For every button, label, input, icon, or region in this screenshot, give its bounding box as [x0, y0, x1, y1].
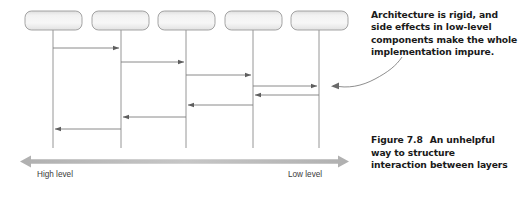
caption-text-line-3: interaction between layers [371, 159, 523, 172]
caption-text-line-2: way to structure [371, 147, 523, 160]
participant-box-5[interactable] [291, 11, 348, 30]
annotation-line-3: components make the whole [371, 34, 523, 46]
annotation-line-4: implementation impure. [371, 46, 523, 58]
participant-box-1[interactable] [25, 11, 82, 30]
annotation-line-2: side effects in low-level [371, 21, 523, 33]
annotation-callout: Architecture is rigid, and side effects … [371, 9, 523, 59]
caption-label: Figure 7.8 [371, 134, 423, 145]
figure-caption: Figure 7.8An unhelpful way to structure … [371, 134, 523, 172]
caption-text-line-1: An unhelpful [430, 134, 495, 145]
participant-box-2[interactable] [92, 11, 149, 30]
axis-label-high-level: High level [37, 170, 73, 179]
level-axis-arrow [20, 156, 349, 168]
participant-box-4[interactable] [225, 11, 282, 30]
figure-container: Architecture is rigid, and side effects … [0, 0, 525, 198]
caption-first-line: Figure 7.8An unhelpful [371, 134, 523, 147]
annotation-line-1: Architecture is rigid, and [371, 9, 523, 21]
participant-boxes-group [25, 11, 348, 30]
annotation-leader-line [331, 57, 402, 89]
participant-box-3[interactable] [158, 11, 215, 30]
axis-label-low-level: Low level [288, 170, 322, 179]
